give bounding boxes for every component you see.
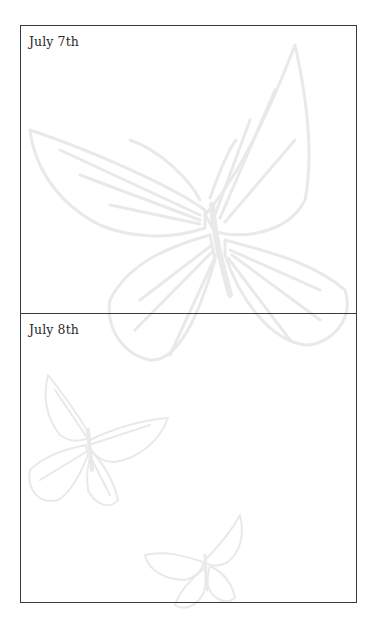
entry-date: July 7th — [29, 34, 79, 49]
journal-entry-july-8[interactable]: July 8th — [21, 314, 356, 602]
journal-entry-july-7[interactable]: July 7th — [21, 26, 356, 314]
journal-page: July 7th July 8th — [0, 0, 379, 633]
journal-box: July 7th July 8th — [20, 25, 357, 603]
entry-date: July 8th — [29, 322, 79, 337]
